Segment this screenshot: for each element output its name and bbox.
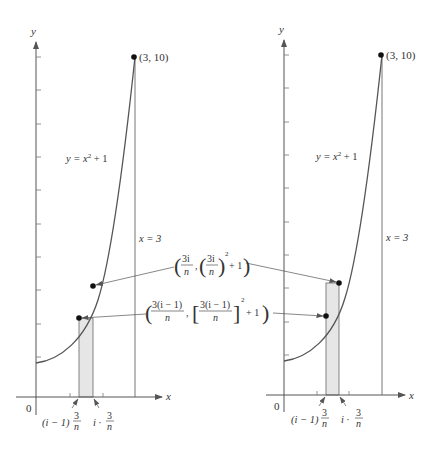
- svg-text:3(i − 1): 3(i − 1): [200, 299, 230, 311]
- parabola-curve: [36, 57, 135, 363]
- svg-text:3i: 3i: [207, 253, 215, 264]
- svg-text:[: [: [192, 300, 199, 325]
- riemann-sum-figure: y x 0 (3, 10) y = x2 + 1 x = 3 (i − 1) 3…: [0, 0, 437, 453]
- y-ticks: [36, 57, 41, 357]
- left-tick-pointer: [319, 397, 325, 406]
- left-tick-label: (i − 1): [291, 414, 319, 426]
- svg-text:]: ]: [233, 300, 240, 325]
- annotation-left-point: ( 3(i − 1) n , [ 3(i − 1) n ] 2 + 1 ): [82, 296, 323, 325]
- x-equals-3-label: x = 3: [385, 232, 408, 243]
- left-tick-pointer: [72, 399, 78, 408]
- left-panel: y x 0 (3, 10) y = x2 + 1 x = 3 (i − 1) 3…: [16, 25, 171, 432]
- right-tick-pointer: [340, 397, 346, 406]
- svg-text:,: ,: [195, 260, 198, 271]
- svg-text:(: (: [174, 253, 181, 278]
- endpoint-label: (3, 10): [386, 49, 416, 62]
- pointer-arrow-right-panel: [273, 313, 323, 316]
- left-tick-frac-num: 3: [322, 407, 327, 418]
- left-tick-label: (i − 1): [42, 417, 70, 429]
- right-tick-frac-num: 3: [107, 410, 112, 421]
- left-tick-frac-den: n: [74, 421, 79, 432]
- right-tick-label: i ·: [93, 417, 102, 428]
- right-tick-frac-den: n: [107, 421, 112, 432]
- y-ticks: [284, 55, 289, 355]
- svg-text:n: n: [209, 266, 214, 277]
- endpoint-label: (3, 10): [139, 51, 169, 64]
- riemann-rectangle: [79, 318, 93, 397]
- annotation-right-point: ( 3i n , ( 3i n ) 2 + 1 ): [96, 250, 336, 285]
- right-tick-pointer: [94, 399, 99, 408]
- right-endpoint-dot: [336, 280, 342, 286]
- origin-label: 0: [26, 402, 32, 414]
- curve-label: y = x2 + 1: [315, 150, 358, 162]
- x-axis-label: x: [165, 390, 171, 402]
- left-tick-frac-den: n: [322, 418, 327, 429]
- origin-label: 0: [274, 400, 280, 412]
- svg-text:): ): [243, 253, 250, 278]
- svg-text:(: (: [199, 253, 206, 278]
- endpoint-dot: [131, 54, 137, 60]
- right-endpoint-dot: [90, 283, 96, 289]
- x-axis-label: x: [408, 389, 414, 401]
- svg-text:+ 1: + 1: [229, 260, 242, 271]
- riemann-rectangle: [326, 283, 339, 395]
- right-tick-label: i ·: [341, 414, 350, 425]
- svg-text:n: n: [184, 266, 189, 277]
- svg-text:n: n: [165, 312, 170, 323]
- y-axis-label: y: [30, 25, 36, 37]
- svg-text:2: 2: [225, 250, 229, 258]
- svg-text:n: n: [213, 312, 218, 323]
- endpoint-dot: [378, 52, 384, 58]
- left-tick-frac-num: 3: [74, 410, 79, 421]
- left-endpoint-dot: [323, 313, 329, 319]
- svg-text:3i: 3i: [182, 253, 190, 264]
- right-panel: y x 0 (3, 10) y = x2 + 1 x = 3 (i − 1) 3…: [266, 23, 416, 429]
- svg-text:3(i − 1): 3(i − 1): [152, 299, 182, 311]
- svg-text:,: ,: [186, 307, 189, 318]
- svg-text:): ): [262, 300, 269, 325]
- left-endpoint-dot: [76, 315, 82, 321]
- curve-label: y = x2 + 1: [65, 152, 108, 164]
- right-tick-frac-den: n: [356, 418, 361, 429]
- svg-text:2: 2: [241, 296, 245, 304]
- right-tick-frac-num: 3: [356, 407, 361, 418]
- svg-text:+ 1: + 1: [246, 307, 259, 318]
- pointer-arrow-right-panel: [246, 263, 336, 282]
- x-equals-3-label: x = 3: [138, 233, 161, 244]
- y-axis-label: y: [278, 23, 284, 35]
